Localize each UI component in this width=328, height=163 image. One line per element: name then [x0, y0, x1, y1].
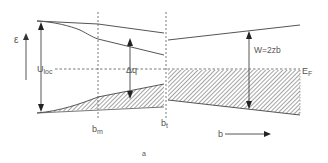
u-loc-arrowhead-up-icon [38, 22, 44, 30]
b-t-label: bt [161, 118, 168, 129]
b-axis-label: b [218, 129, 223, 139]
b-axis-arrowhead-icon [264, 131, 271, 137]
lower-band-line-left [37, 21, 164, 55]
u-loc-arrowhead-down-icon [38, 104, 44, 112]
energy-axis-arrowhead-icon [23, 33, 29, 40]
figure-caption: a [142, 150, 146, 157]
band-diagram: ε Uloc Δq W=2zb EF bm bt b a [0, 0, 328, 163]
w-label: W=2zb [254, 45, 281, 55]
delta-q-label: Δq [126, 65, 137, 75]
fermi-level-label: EF [302, 66, 312, 77]
b-m-label: bm [92, 124, 103, 135]
u-loc-label: Uloc [37, 64, 53, 75]
delta-q-arrowhead-up-icon [127, 38, 133, 46]
valence-region-left [37, 84, 164, 113]
w-arrowhead-up-icon [246, 31, 252, 39]
upper-band-line-right [168, 25, 300, 40]
filled-region-right [168, 70, 300, 115]
energy-axis-label: ε [14, 34, 19, 45]
